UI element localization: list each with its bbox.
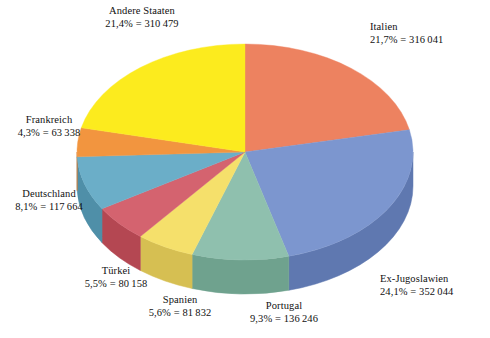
- pie-slices-top: [77, 44, 413, 260]
- slice-label-value: 21,7% = 316 041: [370, 33, 482, 46]
- slice-label-name: Türkei: [64, 264, 168, 277]
- slice-label-value: 8,1% = 117 664: [2, 200, 96, 213]
- slice-label-andere-staaten: Andere Staaten 21,4% = 310 479: [72, 4, 212, 31]
- pie-chart-figure: Andere Staaten 21,4% = 310 479 Italien 2…: [0, 0, 490, 338]
- slice-label-name: Ex-Jugoslawien: [380, 272, 488, 285]
- slice-label-portugal: Portugal 9,3% = 136 246: [232, 299, 336, 326]
- slice-label-value: 4,3% = 63 338: [4, 126, 94, 139]
- slice-label-value: 21,4% = 310 479: [72, 17, 212, 30]
- slice-label-name: Italien: [370, 20, 482, 33]
- slice-label-value: 9,3% = 136 246: [232, 312, 336, 325]
- slice-label-italien: Italien 21,7% = 316 041: [370, 20, 482, 47]
- slice-label-name: Deutschland: [2, 187, 96, 200]
- slice-label-value: 24,1% = 352 044: [380, 285, 488, 298]
- slice-label-name: Spanien: [128, 293, 232, 306]
- slice-label-deutschland: Deutschland 8,1% = 117 664: [2, 187, 96, 214]
- slice-label-name: Andere Staaten: [72, 4, 212, 17]
- slice-label-tuerkei: Türkei 5,5% = 80 158: [64, 264, 168, 291]
- slice-label-value: 5,6% = 81 832: [128, 306, 232, 319]
- pie-slice-side: [192, 255, 289, 294]
- slice-label-ex-jugoslawien: Ex-Jugoslawien 24,1% = 352 044: [380, 272, 488, 299]
- slice-label-value: 5,5% = 80 158: [64, 277, 168, 290]
- slice-label-name: Frankreich: [4, 113, 94, 126]
- slice-label-name: Portugal: [232, 299, 336, 312]
- slice-label-frankreich: Frankreich 4,3% = 63 338: [4, 113, 94, 140]
- slice-label-spanien: Spanien 5,6% = 81 832: [128, 293, 232, 320]
